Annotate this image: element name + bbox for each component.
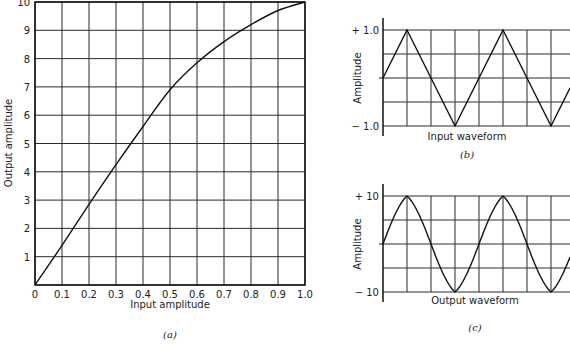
c-x-axis-label: Output waveform (431, 295, 519, 306)
y-tick-label: 4 (24, 167, 30, 178)
input-waveform-chart (379, 18, 570, 136)
b-y-axis-label: Amplitude (352, 52, 363, 103)
x-tick-label: 0.1 (54, 289, 70, 300)
y-tick-label: 3 (24, 195, 30, 206)
y-tick-label: 7 (24, 82, 30, 93)
c-y-axis-label: Amplitude (352, 218, 363, 269)
x-tick-label: 0.7 (216, 289, 232, 300)
x-tick-label: 0 (32, 289, 38, 300)
c-top-tick: + 10 (355, 191, 379, 202)
y-tick-label: 10 (17, 0, 30, 8)
a-x-axis-label: Input amplitude (130, 299, 210, 310)
y-tick-label: 8 (24, 54, 30, 65)
b-caption: (b) (460, 149, 474, 160)
x-tick-label: 0.8 (243, 289, 259, 300)
x-tick-label: 0.2 (81, 289, 97, 300)
c-caption: (c) (468, 322, 482, 333)
y-tick-label: 9 (24, 25, 30, 36)
c-bottom-tick: − 10 (355, 287, 379, 298)
y-tick-label: 1 (24, 252, 30, 263)
y-tick-label: 6 (24, 110, 30, 121)
figure: 00.10.20.30.40.50.60.70.80.91.0123456789… (0, 0, 570, 345)
output-waveform-chart (379, 184, 570, 302)
x-tick-label: 0.9 (270, 289, 286, 300)
x-tick-label: 1.0 (297, 289, 313, 300)
x-tick-label: 0.3 (108, 289, 124, 300)
a-caption: (a) (163, 329, 177, 340)
y-tick-label: 2 (24, 223, 30, 234)
b-bottom-tick: − 1.0 (352, 121, 379, 132)
a-y-axis-label: Output amplitude (3, 99, 14, 187)
y-tick-label: 5 (24, 139, 30, 150)
b-top-tick: + 1.0 (352, 25, 379, 36)
b-x-axis-label: Input waveform (428, 131, 507, 142)
transfer-characteristic-chart: 00.10.20.30.40.50.60.70.80.91.0123456789… (17, 0, 313, 300)
